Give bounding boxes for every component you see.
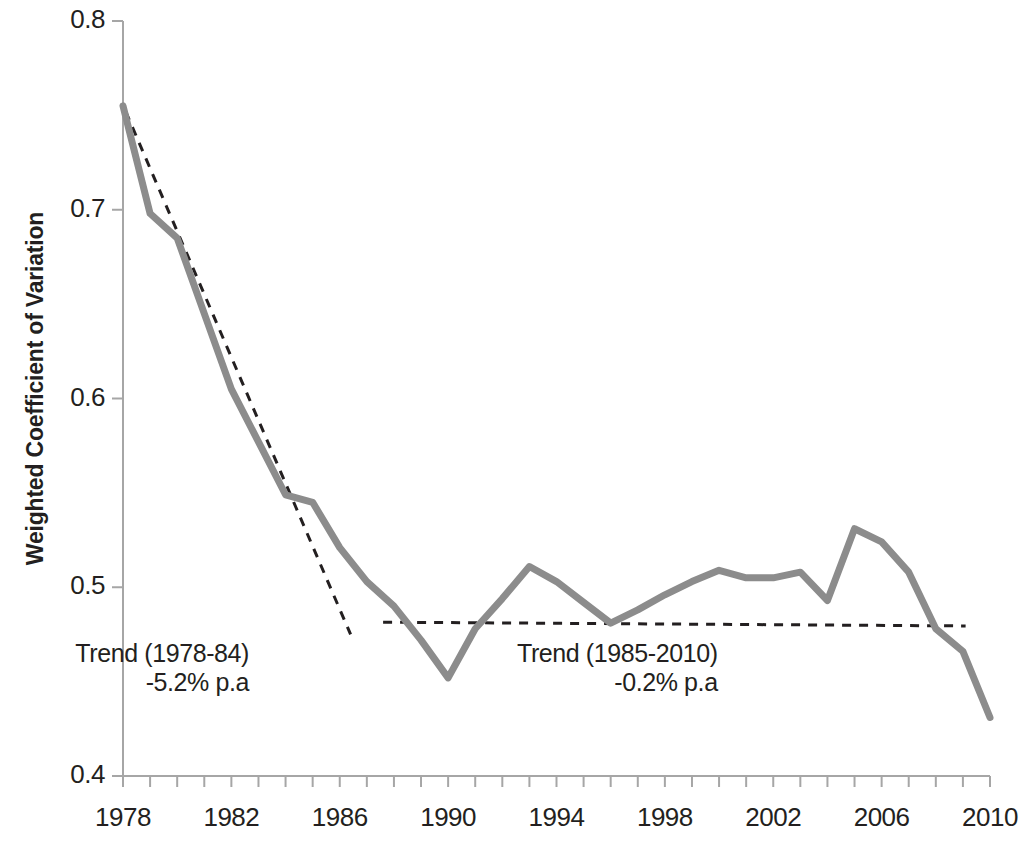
trend-1978-84-annotation: Trend (1978-84)-5.2% p.a <box>75 639 249 697</box>
x-axis-tick-label: 2002 <box>713 802 833 833</box>
x-axis-tick-label: 1978 <box>63 802 183 833</box>
trend-1985-2010-annotation-line2: -0.2% p.a <box>517 668 718 697</box>
x-axis-tick-label: 1990 <box>388 802 508 833</box>
x-axis-tick-label: 2010 <box>930 802 1023 833</box>
x-axis-tick-label: 1994 <box>497 802 617 833</box>
trend-1985-2010-annotation-line1: Trend (1985-2010) <box>517 639 718 668</box>
chart-trendlines <box>126 112 966 635</box>
trend-1978-1984 <box>126 112 351 635</box>
x-axis-tick-label: 1986 <box>280 802 400 833</box>
x-axis-tick-label: 1998 <box>605 802 725 833</box>
y-axis-tick-label: 0.6 <box>70 382 105 413</box>
y-axis-tick-label: 0.4 <box>70 759 105 790</box>
y-axis-tick-label: 0.8 <box>70 4 105 35</box>
trend-1978-84-annotation-line2: -5.2% p.a <box>75 668 249 697</box>
x-axis-tick-label: 2006 <box>822 802 942 833</box>
trend-1985-2010-annotation: Trend (1985-2010)-0.2% p.a <box>517 639 718 697</box>
y-axis-tick-label: 0.5 <box>70 570 105 601</box>
y-axis-title-text: Weighted Coefficient of Variation <box>22 212 48 565</box>
y-axis-title: Weighted Coefficient of Variation <box>22 109 49 669</box>
trend-1978-84-annotation-line1: Trend (1978-84) <box>75 639 249 668</box>
trend-1985-2010 <box>383 622 966 626</box>
y-axis-tick-label: 0.7 <box>70 193 105 224</box>
x-axis-tick-label: 1982 <box>171 802 291 833</box>
